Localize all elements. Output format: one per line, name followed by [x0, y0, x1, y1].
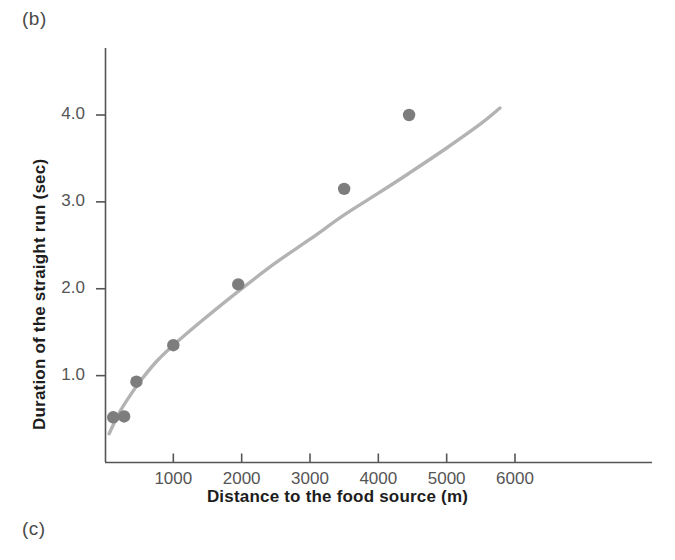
x-axis-title: Distance to the food source (m)	[0, 487, 675, 507]
y-axis-title: Duration of the straight run (sec)	[30, 159, 50, 430]
x-tick-label: 6000	[483, 469, 547, 489]
axes	[105, 48, 652, 463]
y-tick-marks	[96, 115, 105, 376]
x-tick-label: 5000	[415, 469, 479, 489]
y-tick-label: 4.0	[39, 104, 85, 124]
panel-label-c: (c)	[22, 518, 46, 540]
data-point	[167, 339, 179, 351]
x-tick-label: 1000	[141, 469, 205, 489]
data-point	[130, 376, 142, 388]
data-point	[403, 109, 415, 121]
plot-canvas	[0, 0, 675, 500]
data-point	[107, 411, 119, 423]
x-tick-marks	[173, 454, 515, 463]
data-point	[118, 410, 130, 422]
x-tick-label: 2000	[210, 469, 274, 489]
data-point	[338, 183, 350, 195]
data-point-markers	[107, 109, 415, 424]
scatter-plot: 1.02.03.04.0 100020003000400050006000 Du…	[0, 0, 675, 500]
data-point	[232, 278, 244, 290]
x-tick-label: 4000	[346, 469, 410, 489]
x-tick-label: 3000	[278, 469, 342, 489]
fitted-curve	[109, 108, 500, 434]
figure-container: (b) 1.02.03.04.0 10002000300040005000600…	[0, 0, 675, 560]
